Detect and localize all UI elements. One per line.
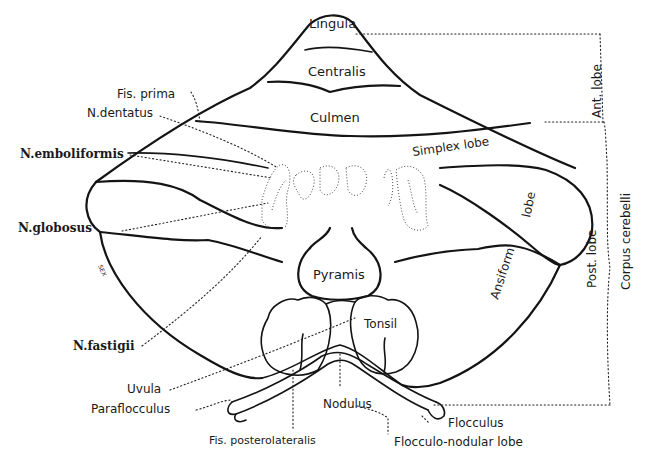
label-fis-prima: Fis. prima: [117, 87, 175, 101]
bottom-labels: Fis. posterolateralis Flocculus Flocculo…: [209, 416, 523, 449]
leader-lines: [122, 34, 610, 434]
label-fis-posterolateralis: Fis. posterolateralis: [209, 434, 316, 447]
label-post-lobe: Post. lobe: [585, 230, 599, 288]
label-n-dentatus: N.dentatus: [87, 106, 153, 120]
label-centralis: Centralis: [308, 64, 366, 79]
cerebellum-diagram: Lingula Centralis Culmen Simplex lobe lo…: [0, 0, 646, 461]
label-tonsil: Tonsil: [363, 317, 397, 331]
label-n-globosus: N.globosus: [18, 221, 92, 235]
label-n-emboliformis: N.emboliformis: [20, 147, 124, 161]
label-flocculo-nodular-lobe: Flocculo-nodular lobe: [394, 435, 523, 449]
label-culmen: Culmen: [310, 110, 360, 125]
cerebellar-nuclei: [262, 165, 428, 231]
label-pyramis: Pyramis: [313, 267, 365, 282]
left-labels: Fis. prima N.dentatus N.emboliformis N.g…: [18, 87, 175, 416]
label-ansiform-lobe: lobe: [519, 191, 538, 219]
label-simplex-lobe: Simplex lobe: [411, 134, 490, 159]
label-flocculus: Flocculus: [448, 416, 504, 430]
label-ant-lobe: Ant. lobe: [590, 64, 604, 118]
label-sex: SEX: [97, 263, 108, 277]
label-nodulus: Nodulus: [323, 397, 372, 411]
label-lingula: Lingula: [309, 16, 356, 31]
region-labels: Lingula Centralis Culmen Simplex lobe lo…: [308, 16, 538, 411]
label-corpus-cerebelli: Corpus cerebelli: [619, 193, 633, 290]
label-uvula: Uvula: [127, 382, 161, 396]
label-paraflocculus: Paraflocculus: [91, 402, 170, 416]
label-n-fastigii: N.fastigii: [73, 339, 135, 353]
label-ansiform: Ansiform: [488, 246, 518, 301]
